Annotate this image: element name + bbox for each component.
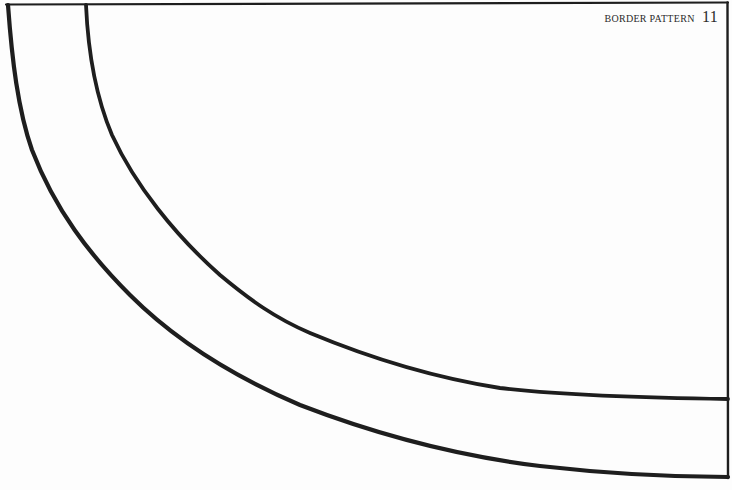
pattern-title: BORDER PATTERN 11 [604,8,718,26]
pattern-number: 11 [702,8,718,25]
pattern-drawing [0,0,732,490]
outer-border-curve [8,5,728,477]
pattern-page: BORDER PATTERN 11 [0,0,732,490]
top-edge-line [6,3,728,5]
right-edge-line [728,3,729,479]
pattern-title-text: BORDER PATTERN [604,10,694,25]
